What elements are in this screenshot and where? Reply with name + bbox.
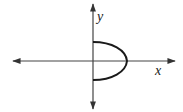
coordinate-graph: y x: [0, 0, 183, 112]
x-axis-label: x: [154, 63, 162, 78]
y-axis-label: y: [95, 9, 104, 24]
